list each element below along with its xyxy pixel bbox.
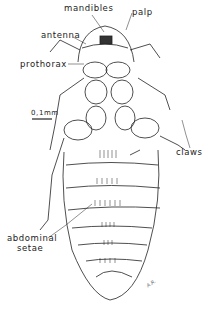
label-abdominal: abdominal: [7, 234, 57, 243]
label-mandibles: mandibles: [64, 4, 113, 13]
label-prothorax: prothorax: [20, 60, 67, 69]
label-antenna: antenna: [41, 31, 80, 40]
label-setae: setae: [17, 244, 43, 253]
label-scale-bar: 0,1mm: [31, 110, 59, 117]
label-palp: palp: [132, 8, 153, 17]
label-claws: claws: [176, 148, 203, 157]
